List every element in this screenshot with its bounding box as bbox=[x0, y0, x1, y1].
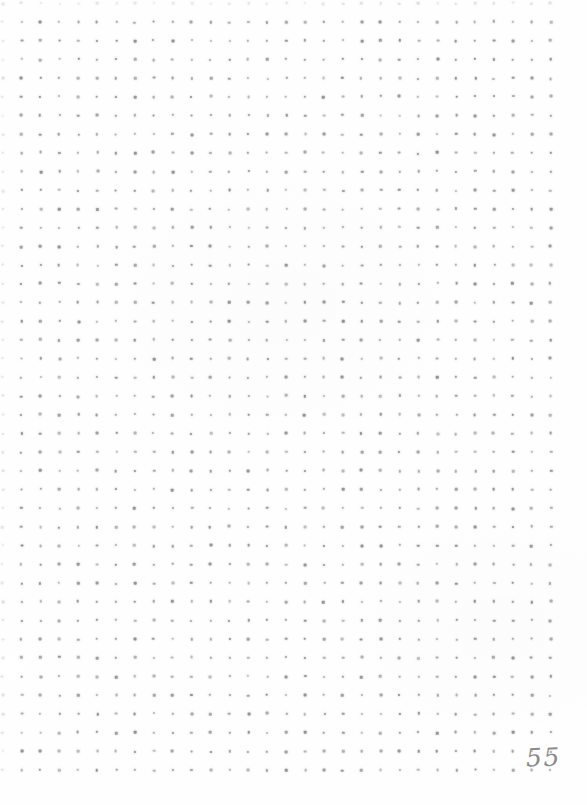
grid-dot bbox=[531, 170, 533, 172]
grid-dot bbox=[530, 507, 533, 510]
grid-dot bbox=[474, 320, 477, 323]
grid-dot bbox=[77, 712, 80, 715]
grid-dot bbox=[58, 432, 61, 435]
grid-dot bbox=[96, 657, 99, 660]
grid-dot bbox=[398, 3, 401, 6]
grid-dot bbox=[530, 208, 533, 211]
grid-dot bbox=[285, 769, 288, 772]
grid-dot bbox=[95, 395, 98, 398]
grid-dot bbox=[399, 264, 401, 266]
grid-dot bbox=[492, 95, 494, 97]
grid-dot bbox=[2, 489, 5, 492]
grid-dot bbox=[455, 300, 458, 303]
grid-dot bbox=[380, 282, 383, 285]
grid-dot bbox=[549, 582, 551, 584]
grid-dot bbox=[323, 582, 326, 585]
grid-dot bbox=[2, 40, 4, 42]
grid-dot bbox=[96, 40, 98, 42]
grid-dot bbox=[455, 114, 458, 117]
grid-dot bbox=[323, 656, 326, 659]
grid-dot bbox=[247, 208, 250, 211]
grid-dot bbox=[360, 581, 363, 584]
grid-dot bbox=[379, 732, 382, 735]
grid-dot bbox=[2, 544, 4, 546]
grid-dot bbox=[380, 2, 383, 5]
grid-dot bbox=[456, 21, 459, 24]
grid-dot bbox=[492, 20, 494, 22]
grid-dot bbox=[171, 339, 174, 342]
grid-dot bbox=[341, 563, 343, 565]
grid-dot bbox=[379, 395, 382, 398]
grid-dot bbox=[474, 619, 476, 621]
grid-dot bbox=[361, 507, 364, 510]
grid-dot bbox=[379, 525, 382, 528]
grid-dot bbox=[191, 133, 194, 136]
grid-dot bbox=[436, 170, 438, 172]
grid-dot bbox=[172, 226, 174, 228]
grid-dot bbox=[531, 114, 534, 117]
grid-dot bbox=[266, 731, 268, 733]
grid-dot bbox=[399, 732, 401, 734]
grid-dot bbox=[115, 526, 118, 529]
grid-dot bbox=[455, 132, 458, 135]
grid-dot bbox=[247, 20, 249, 22]
grid-dot bbox=[59, 170, 62, 173]
grid-dot bbox=[115, 264, 117, 266]
grid-dot bbox=[96, 283, 98, 285]
grid-dot bbox=[360, 2, 363, 5]
grid-dot bbox=[2, 432, 4, 434]
grid-dot bbox=[134, 133, 136, 135]
grid-dot bbox=[172, 21, 174, 23]
grid-dot bbox=[39, 338, 41, 340]
grid-dot bbox=[21, 208, 23, 210]
grid-dot bbox=[39, 413, 42, 416]
grid-dot bbox=[530, 2, 532, 4]
grid-dot bbox=[436, 320, 438, 322]
grid-dot bbox=[304, 76, 307, 79]
grid-dot bbox=[379, 21, 382, 24]
grid-dot bbox=[228, 264, 230, 266]
grid-dot bbox=[210, 40, 212, 42]
grid-dot bbox=[114, 712, 117, 715]
grid-dot bbox=[512, 40, 515, 43]
grid-dot bbox=[191, 58, 193, 60]
grid-dot bbox=[248, 283, 250, 285]
grid-dot bbox=[549, 282, 551, 284]
grid-dot bbox=[493, 376, 496, 379]
grid-dot bbox=[171, 58, 174, 61]
grid-dot bbox=[399, 620, 401, 622]
grid-dot bbox=[474, 563, 477, 566]
grid-dot bbox=[229, 769, 231, 771]
grid-dot bbox=[77, 563, 80, 566]
grid-dot bbox=[190, 750, 193, 753]
grid-dot bbox=[455, 507, 458, 510]
grid-dot bbox=[96, 769, 99, 772]
grid-dot bbox=[417, 432, 419, 434]
grid-dot bbox=[21, 601, 23, 603]
grid-dot bbox=[77, 694, 79, 696]
grid-dot bbox=[76, 170, 78, 172]
grid-dot bbox=[265, 525, 268, 528]
grid-dot bbox=[493, 545, 495, 547]
grid-dot bbox=[209, 657, 211, 659]
grid-dot bbox=[210, 432, 213, 435]
grid-dot bbox=[436, 638, 438, 640]
grid-dot bbox=[474, 545, 476, 547]
grid-dot bbox=[322, 96, 325, 99]
grid-dot bbox=[209, 320, 212, 323]
grid-dot bbox=[191, 170, 193, 172]
grid-dot bbox=[247, 469, 250, 472]
grid-dot bbox=[493, 2, 495, 4]
grid-dot bbox=[304, 188, 307, 191]
grid-dot bbox=[455, 338, 458, 341]
grid-dot bbox=[398, 170, 400, 172]
grid-dot bbox=[209, 563, 212, 566]
grid-dot bbox=[58, 376, 61, 379]
grid-dot bbox=[266, 656, 268, 658]
grid-dot bbox=[436, 115, 439, 118]
grid-dot bbox=[96, 713, 98, 715]
grid-dot bbox=[228, 208, 230, 210]
grid-dot bbox=[341, 469, 344, 472]
grid-dot bbox=[474, 152, 476, 154]
grid-dot bbox=[379, 132, 382, 135]
